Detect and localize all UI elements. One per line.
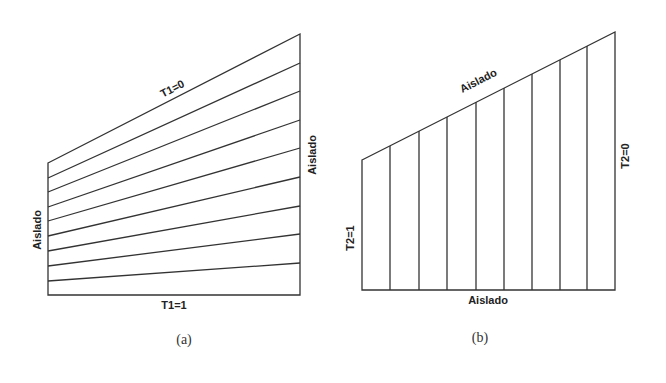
figure-a-contour-line (48, 91, 300, 192)
figure-a-bottom-label: T1=1 (161, 299, 186, 311)
figure-a-right-label: Aislado (306, 135, 318, 175)
figure-b-left-label: T2=1 (344, 225, 356, 250)
figure-b-right-label: T2=0 (619, 143, 631, 168)
figure-a (48, 34, 300, 295)
figure-a-contour-line (48, 263, 300, 281)
figure-b-top-label: Aislado (458, 66, 499, 95)
figure-a-outline (48, 34, 300, 295)
figure-a-caption: (a) (176, 332, 192, 348)
figure-a-contour-line (48, 234, 300, 266)
figure-a-contour-line (48, 120, 300, 207)
figure-b-bottom-label: Aislado (468, 294, 508, 306)
figure-a-contour-line (48, 148, 300, 221)
figure-a-top-label: T1=0 (158, 77, 186, 99)
figure-a-left-label: Aislado (31, 210, 43, 250)
diagram-canvas: T1=0 T1=1 Aislado Aislado (a) Aislado Ai… (0, 0, 666, 383)
figure-a-contour-line (48, 206, 300, 251)
figure-a-contour-line (48, 177, 300, 236)
figure-b-caption: (b) (472, 330, 489, 346)
